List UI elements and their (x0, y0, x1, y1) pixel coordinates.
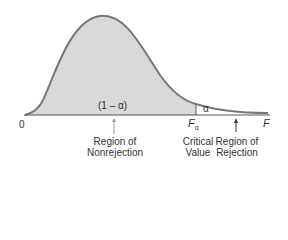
critical-line2: Value (182, 147, 214, 158)
critical-subscript: α (195, 124, 199, 131)
critical-value-label: Critical Value (182, 136, 214, 158)
nonrejection-area-label: (1 – α) (98, 100, 127, 111)
critical-line1: Critical (182, 136, 214, 147)
critical-symbol: F (188, 117, 195, 129)
region-nonrejection-label: Region of Nonrejection (84, 136, 146, 158)
region-nonrejection-line1: Region of (84, 136, 146, 147)
critical-value-symbol: Fα (188, 118, 199, 133)
nonrejection-arrow-head-icon (112, 118, 116, 122)
region-rejection-label: Region of Rejection (212, 136, 262, 158)
region-nonrejection-line2: Nonrejection (84, 147, 146, 158)
rejection-area-label: α (203, 103, 209, 114)
region-rejection-line1: Region of (212, 136, 262, 147)
origin-label: 0 (19, 119, 25, 130)
region-rejection-line2: Rejection (212, 147, 262, 158)
axis-end-label: F (263, 118, 270, 129)
rejection-arrow-head-icon (234, 118, 238, 123)
